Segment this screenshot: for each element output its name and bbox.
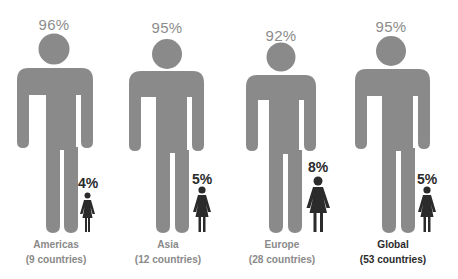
region-name: Europe bbox=[234, 237, 331, 252]
region-name: Americas bbox=[8, 237, 105, 252]
woman-icon bbox=[307, 177, 331, 233]
region-label-americas: Americas (9 countries) bbox=[8, 237, 105, 267]
woman-icon bbox=[418, 186, 436, 232]
women-percentage: 5% bbox=[412, 171, 442, 187]
region-label-asia: Asia (12 countries) bbox=[120, 237, 217, 267]
women-percentage: 5% bbox=[187, 171, 217, 187]
region-label-europe: Europe (28 countries) bbox=[234, 237, 331, 267]
region-name: Global bbox=[345, 237, 442, 252]
region-name: Asia bbox=[120, 237, 217, 252]
man-icon bbox=[355, 36, 430, 233]
woman-icon bbox=[80, 193, 95, 233]
man-icon bbox=[129, 39, 204, 233]
region-country-count: (12 countries) bbox=[120, 252, 217, 267]
region-label-global: Global (53 countries) bbox=[345, 237, 442, 267]
men-percentage: 96% bbox=[14, 16, 94, 33]
men-percentage: 95% bbox=[351, 18, 431, 35]
men-percentage: 92% bbox=[241, 27, 321, 44]
region-country-count: (28 countries) bbox=[234, 252, 331, 267]
women-percentage: 8% bbox=[303, 159, 333, 175]
region-country-count: (53 countries) bbox=[345, 252, 442, 267]
region-country-count: (9 countries) bbox=[8, 252, 105, 267]
men-percentage: 95% bbox=[127, 19, 207, 36]
woman-icon bbox=[193, 186, 211, 232]
man-icon bbox=[246, 43, 316, 234]
women-percentage: 4% bbox=[73, 175, 103, 191]
man-icon bbox=[17, 34, 93, 234]
